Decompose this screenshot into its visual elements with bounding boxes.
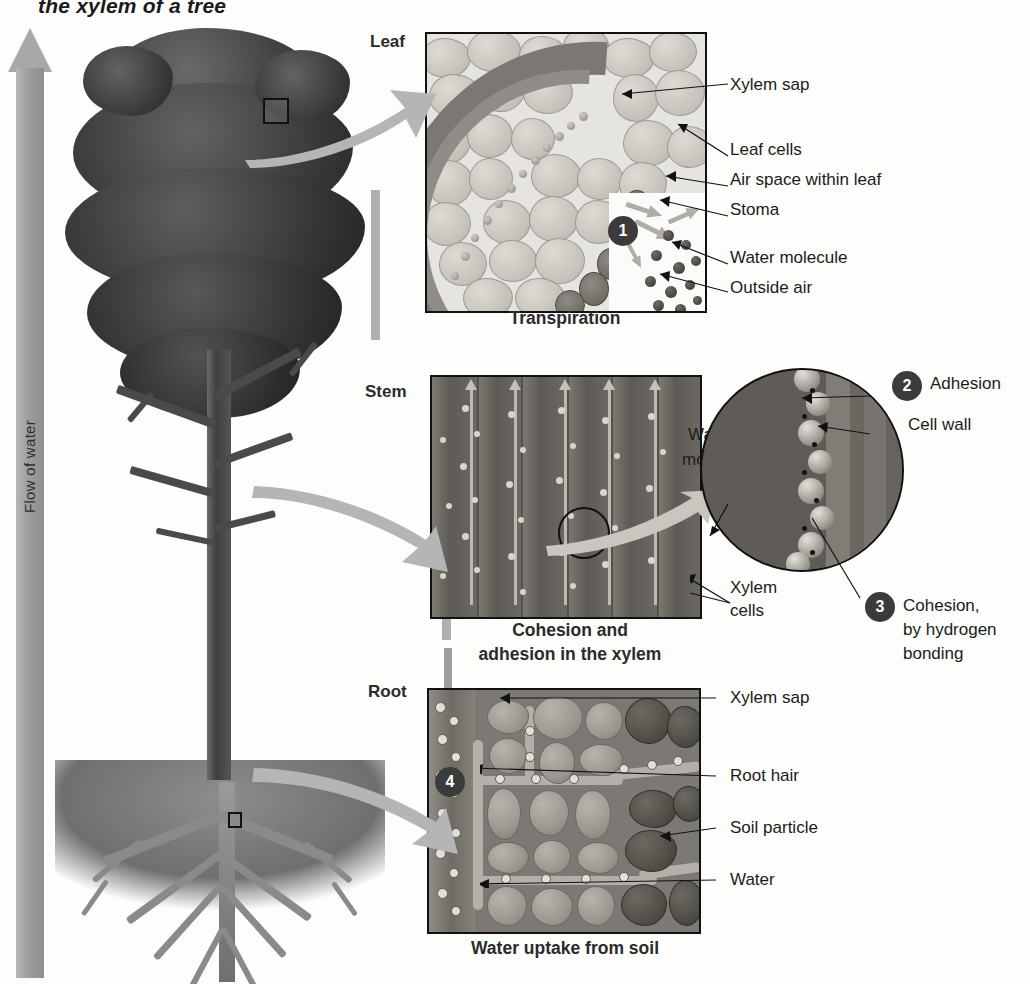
arrow-head-icon [8, 28, 52, 72]
flow-of-water-arrow: Flow of water [8, 28, 52, 978]
section-label-leaf: Leaf [370, 32, 405, 52]
leaf-zoom-pointer-arrow [240, 60, 440, 170]
tree-trunk [207, 350, 231, 780]
leaf-leader-lines [560, 60, 750, 310]
page-title: the xylem of a tree [38, 0, 226, 18]
section-label-root: Root [368, 682, 407, 702]
callout-number-1: 1 [608, 216, 638, 246]
root-zoom-pointer-arrow [250, 760, 460, 860]
root-label-water: Water [730, 870, 775, 890]
flow-of-water-label: Flow of water [21, 402, 38, 532]
callout-number-2: 2 [892, 371, 922, 401]
root-label-soil-particle: Soil particle [730, 818, 818, 838]
diagram-page: the xylem of a tree Flow of water [0, 0, 1030, 984]
root-label-root-hair: Root hair [730, 766, 799, 786]
leaf-to-stem-connector [371, 190, 380, 340]
callout-number-4: 4 [435, 767, 465, 797]
root-zoom-locator-box [228, 812, 242, 828]
caption-water-uptake: Water uptake from soil [410, 938, 720, 959]
stem-label-adhesion: Adhesion [930, 374, 1001, 394]
root-leader-lines [480, 688, 730, 888]
root-label-xylem-sap: Xylem sap [730, 688, 809, 708]
caption-cohesion-line1: Cohesion and [410, 620, 730, 641]
section-label-stem: Stem [365, 382, 407, 402]
callout-number-3: 3 [865, 592, 895, 622]
stem-zoom-pointer-arrow [250, 480, 450, 580]
caption-cohesion-line2: adhesion in the xylem [410, 644, 730, 665]
caption-transpiration: Transpiration [460, 308, 670, 329]
leaf-label-air-space: Air space within leaf [730, 170, 881, 190]
